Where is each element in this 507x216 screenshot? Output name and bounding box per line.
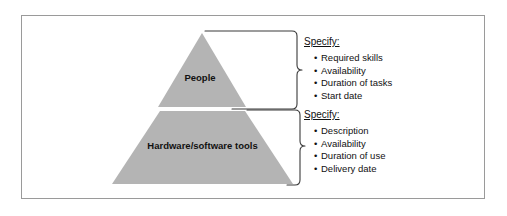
list-item-label: Required skills (321, 52, 383, 63)
bullet-icon: • (314, 150, 317, 163)
list-item-label: Availability (321, 65, 366, 76)
list-item: • Availability (314, 65, 392, 78)
bullet-icon: • (314, 125, 317, 138)
bullet-icon: • (314, 163, 317, 176)
list-item-label: Description (321, 125, 369, 136)
list-item-label: Start date (321, 90, 362, 101)
list-item-label: Duration of use (321, 150, 385, 161)
list-item: • Duration of use (314, 150, 385, 163)
list-item: • Availability (314, 138, 385, 151)
callout-people-heading: Specify: (304, 36, 392, 48)
list-item: • Start date (314, 90, 392, 103)
list-item: • Required skills (314, 52, 392, 65)
pyramid-tier-top-shape (158, 33, 246, 107)
bullet-icon: • (314, 138, 317, 151)
callout-people-list: • Required skills • Availability • Durat… (304, 52, 392, 102)
list-item-label: Delivery date (321, 163, 376, 174)
bullet-icon: • (314, 52, 317, 65)
callout-tools-heading: Specify: (304, 109, 385, 121)
callout-tools-list: • Description • Availability • Duration … (304, 125, 385, 175)
list-item: • Delivery date (314, 163, 385, 176)
list-item: • Description (314, 125, 385, 138)
pyramid-tier-top-label: People (150, 72, 250, 83)
pyramid-tier-bottom-label: Hardware/software tools (120, 140, 285, 151)
bullet-icon: • (314, 90, 317, 103)
callout-people: Specify: • Required skills • Availabilit… (304, 36, 392, 102)
list-item: • Duration of tasks (314, 77, 392, 90)
callout-tools: Specify: • Description • Availability • … (304, 109, 385, 175)
bullet-icon: • (314, 77, 317, 90)
pyramid-diagram (0, 0, 507, 216)
bullet-icon: • (314, 65, 317, 78)
list-item-label: Availability (321, 138, 366, 149)
figure-canvas: People Hardware/software tools Specify: … (0, 0, 507, 216)
list-item-label: Duration of tasks (321, 77, 392, 88)
